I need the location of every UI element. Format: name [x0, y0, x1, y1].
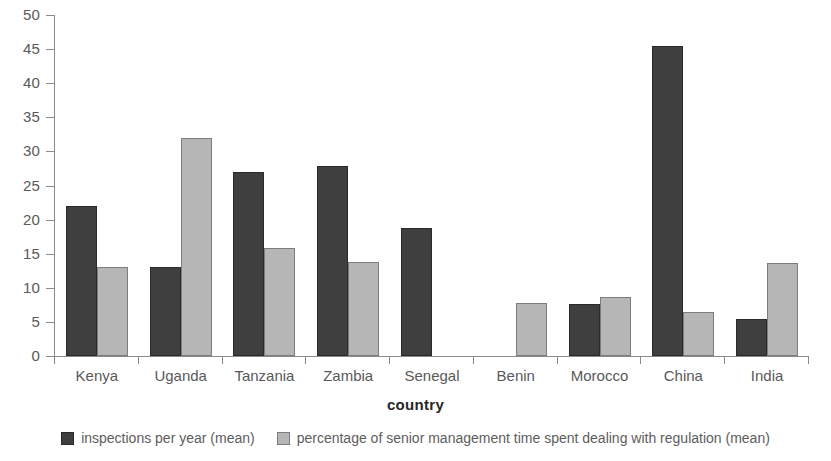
bar	[264, 248, 295, 356]
x-axis-tick-mark	[724, 357, 725, 364]
x-axis-tick-label: India	[725, 366, 809, 386]
y-axis-tick-label: 35	[0, 109, 40, 124]
bar	[516, 303, 547, 356]
y-axis-tick-label: 50	[0, 7, 40, 22]
bars-container	[55, 0, 809, 357]
x-axis-tick-mark	[808, 357, 809, 364]
x-axis-title: country	[0, 396, 831, 413]
x-axis-tick-mark	[557, 357, 558, 364]
y-axis-tick-label: 20	[0, 212, 40, 227]
y-axis-tick-mark	[46, 322, 54, 323]
bar	[66, 206, 97, 356]
bar-chart: 05101520253035404550 KenyaUgandaTanzania…	[0, 0, 831, 461]
y-axis-tick-label: 30	[0, 143, 40, 158]
bar	[150, 267, 181, 356]
bar	[181, 138, 212, 356]
legend-item: inspections per year (mean)	[61, 430, 255, 446]
x-axis-tick-mark	[222, 357, 223, 364]
dark-square-swatch	[61, 432, 74, 445]
bar	[348, 262, 379, 356]
y-axis-tick-mark	[46, 288, 54, 289]
x-axis-tick-label: Senegal	[390, 366, 474, 386]
light-square-swatch	[277, 432, 290, 445]
bar	[97, 267, 128, 356]
bar	[652, 46, 683, 356]
x-axis-tick-mark	[389, 357, 390, 364]
bar	[600, 297, 631, 356]
bar	[569, 304, 600, 357]
y-axis-tick-mark	[46, 151, 54, 152]
x-axis-tick-label: Benin	[474, 366, 558, 386]
y-axis-tick-mark	[46, 186, 54, 187]
bar	[767, 263, 798, 356]
y-axis-tick-labels: 05101520253035404550	[0, 0, 40, 380]
y-axis-tick-mark	[46, 254, 54, 255]
y-axis-tick-mark	[46, 83, 54, 84]
x-axis-tick-mark	[473, 357, 474, 364]
x-axis-tick-label: Uganda	[139, 366, 223, 386]
y-axis-tick-label: 45	[0, 41, 40, 56]
bar	[401, 228, 432, 356]
y-axis-tick-label: 5	[0, 314, 40, 329]
y-axis-tick-mark	[46, 356, 54, 357]
y-axis-tick-label: 10	[0, 280, 40, 295]
bar	[317, 166, 348, 356]
x-axis-tick-mark	[305, 357, 306, 364]
y-axis-tick-label: 0	[0, 348, 40, 363]
y-axis-tick-label: 15	[0, 246, 40, 261]
legend-item: percentage of senior management time spe…	[277, 430, 770, 446]
x-axis-tick-label: Morocco	[558, 366, 642, 386]
bar	[233, 172, 264, 356]
legend-label: inspections per year (mean)	[81, 430, 255, 446]
x-axis-tick-label: Kenya	[55, 366, 139, 386]
plot-area: 05101520253035404550 KenyaUgandaTanzania…	[0, 0, 831, 380]
y-axis-tick-mark	[46, 15, 54, 16]
legend-label: percentage of senior management time spe…	[297, 430, 770, 446]
y-axis-tick-label: 40	[0, 75, 40, 90]
bar	[683, 312, 714, 356]
x-axis-tick-labels: KenyaUgandaTanzaniaZambiaSenegalBeninMor…	[55, 366, 809, 392]
y-axis-tick-mark	[46, 220, 54, 221]
x-axis-tick-mark	[54, 357, 55, 364]
x-axis-tick-marks	[54, 357, 809, 365]
x-axis-tick-mark	[138, 357, 139, 364]
x-axis-tick-label: Zambia	[306, 366, 390, 386]
x-axis-tick-label: Tanzania	[223, 366, 307, 386]
y-axis-tick-label: 25	[0, 178, 40, 193]
y-axis-tick-mark	[46, 49, 54, 50]
chart-legend: inspections per year (mean)percentage of…	[0, 430, 831, 446]
bar	[736, 319, 767, 356]
x-axis-tick-mark	[640, 357, 641, 364]
x-axis-tick-label: China	[641, 366, 725, 386]
y-axis-tick-mark	[46, 117, 54, 118]
